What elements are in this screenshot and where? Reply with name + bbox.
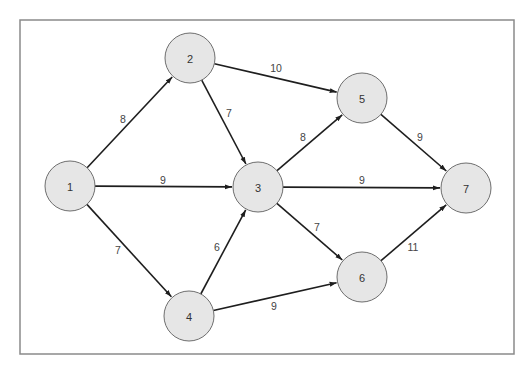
edge-1-to-3 — [95, 186, 232, 187]
edge-weight-label: 9 — [359, 174, 365, 186]
node-4: 4 — [164, 291, 214, 341]
node-3: 3 — [233, 162, 283, 212]
node-label: 6 — [359, 272, 365, 284]
edge-weight-label: 9 — [271, 300, 277, 312]
edge-4-to-3 — [201, 210, 246, 294]
edge-weight-label: 10 — [270, 62, 282, 74]
edge-2-to-3 — [202, 80, 246, 164]
node-label: 5 — [359, 93, 365, 105]
node-2: 2 — [165, 33, 215, 83]
node-5: 5 — [337, 73, 387, 123]
node-label: 4 — [186, 311, 192, 323]
edge-5-to-7 — [381, 114, 446, 171]
edge-weight-label: 9 — [160, 174, 166, 186]
edge-weight-label: 8 — [300, 131, 306, 143]
edge-weight-label: 8 — [120, 113, 126, 125]
edge-weight-label: 7 — [226, 107, 232, 119]
edge-weight-label: 9 — [417, 131, 423, 143]
edge-weight-label: 11 — [408, 241, 419, 253]
edge-weight-label: 7 — [314, 221, 320, 233]
node-label: 7 — [463, 183, 469, 195]
node-1: 1 — [45, 161, 95, 211]
node-label: 2 — [187, 53, 193, 65]
edge-3-to-7 — [283, 187, 440, 188]
edge-1-to-2 — [87, 77, 172, 168]
nodes-layer: 1234567 — [45, 33, 491, 341]
edge-3-to-6 — [277, 203, 342, 260]
edge-3-to-5 — [277, 115, 342, 171]
edge-weight-label: 7 — [115, 244, 121, 256]
node-label: 3 — [255, 182, 261, 194]
node-label: 1 — [67, 181, 73, 193]
network-diagram: 89771068979911 1234567 — [0, 0, 532, 374]
edge-weight-label: 6 — [214, 241, 220, 253]
node-6: 6 — [337, 252, 387, 302]
edge-1-to-4 — [87, 204, 171, 296]
node-7: 7 — [441, 163, 491, 213]
